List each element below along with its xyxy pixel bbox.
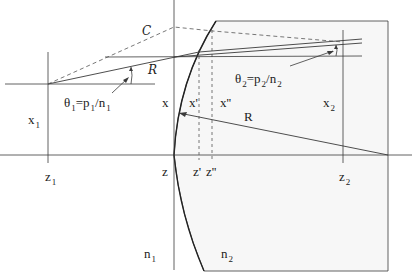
label-z1: z1	[45, 170, 56, 187]
label-z-dprime: z''	[206, 165, 216, 178]
label-x1: x1	[28, 113, 40, 130]
medium-2-region	[174, 21, 388, 271]
label-z: z	[162, 165, 168, 178]
label-x2: x2	[323, 96, 335, 113]
label-n2: n2	[221, 247, 233, 264]
label-x-prime: x'	[189, 96, 198, 109]
label-z-prime: z'	[193, 165, 201, 178]
label-theta2: θ2=p2/n2	[235, 72, 282, 89]
label-x: x	[162, 96, 169, 109]
label-theta1: θ1=p1/n1	[64, 96, 111, 113]
label-c: C	[142, 25, 151, 37]
label-r: R	[244, 110, 253, 123]
label-x-dprime: x''	[220, 96, 231, 109]
optics-diagram: C R θ1=p1/n1 θ2=p2/n2 x1 x2 x x' x'' R z…	[0, 0, 412, 278]
label-n1: n1	[144, 247, 156, 264]
theta1-arc-arrowhead	[129, 67, 133, 71]
diagram-canvas	[0, 0, 412, 278]
label-z2: z2	[339, 170, 350, 187]
label-script-r: R	[148, 64, 157, 76]
